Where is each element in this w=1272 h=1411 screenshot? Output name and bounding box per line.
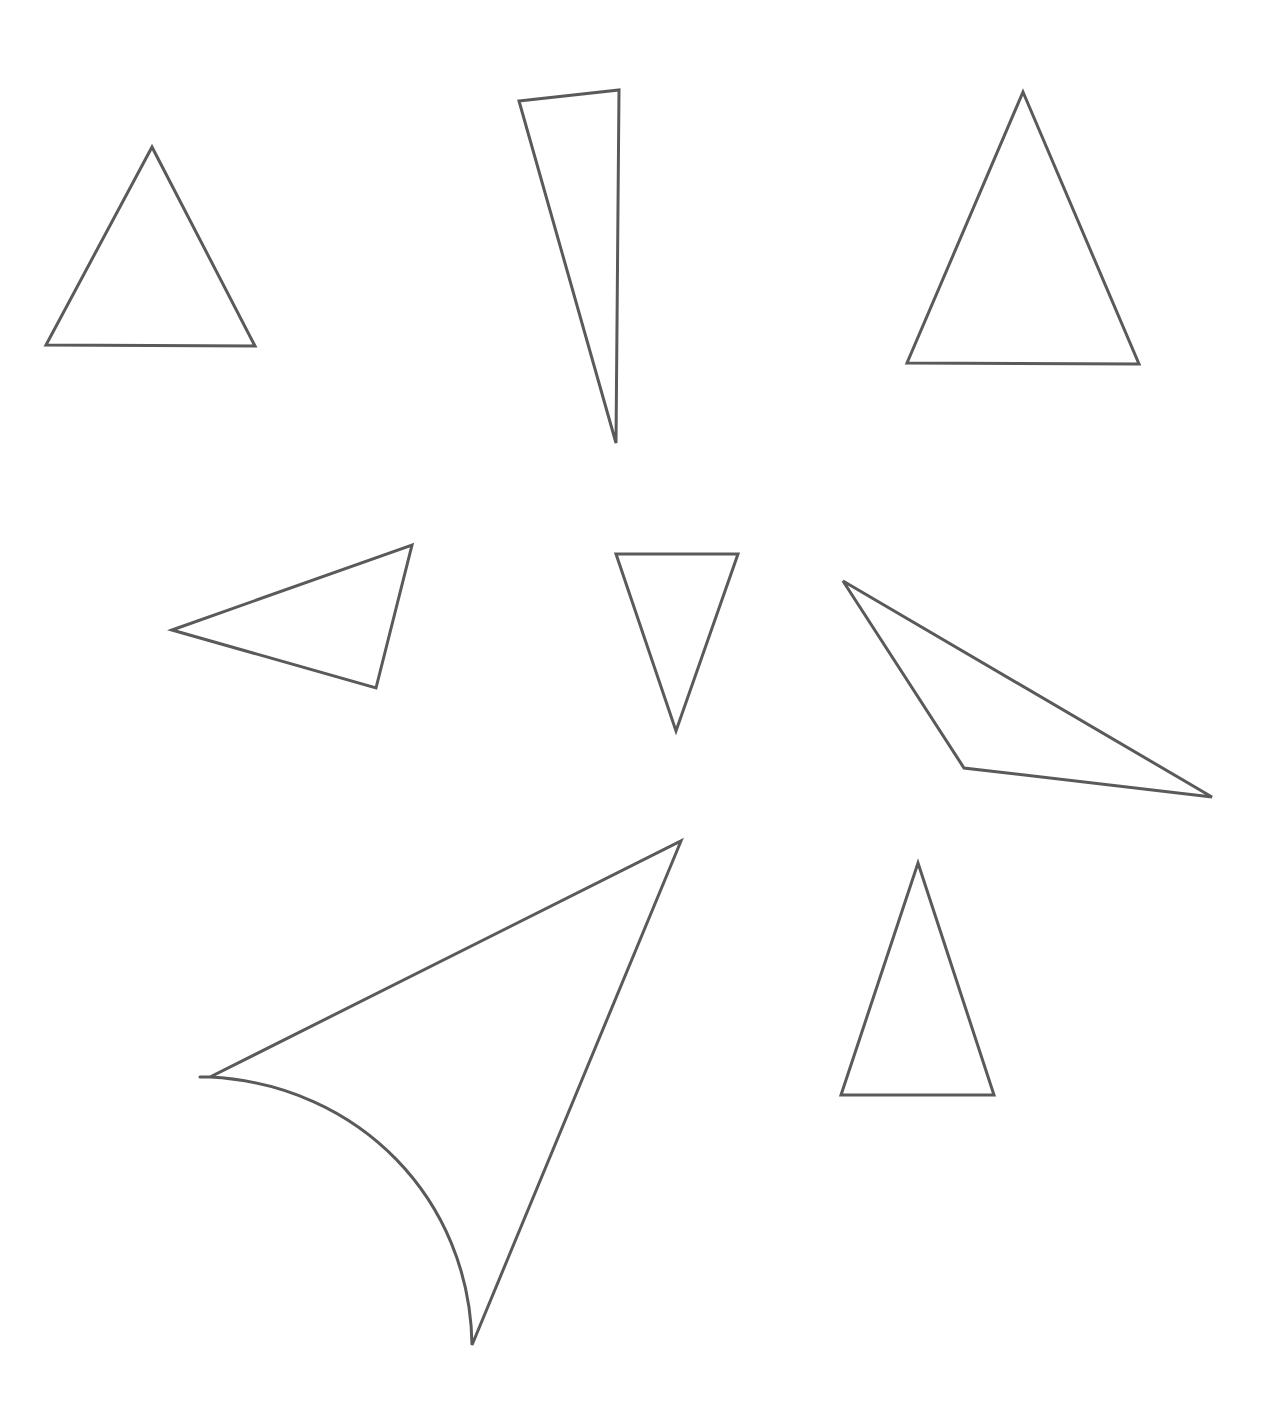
triangle-6	[843, 581, 1212, 797]
shapes-canvas	[0, 0, 1272, 1411]
triangle-2	[519, 90, 619, 443]
triangle-3	[907, 92, 1139, 364]
triangle-7-curved	[200, 841, 681, 1345]
triangle-4	[172, 545, 412, 688]
triangle-8	[841, 863, 994, 1095]
triangle-1	[46, 147, 255, 346]
triangle-5	[616, 554, 738, 731]
